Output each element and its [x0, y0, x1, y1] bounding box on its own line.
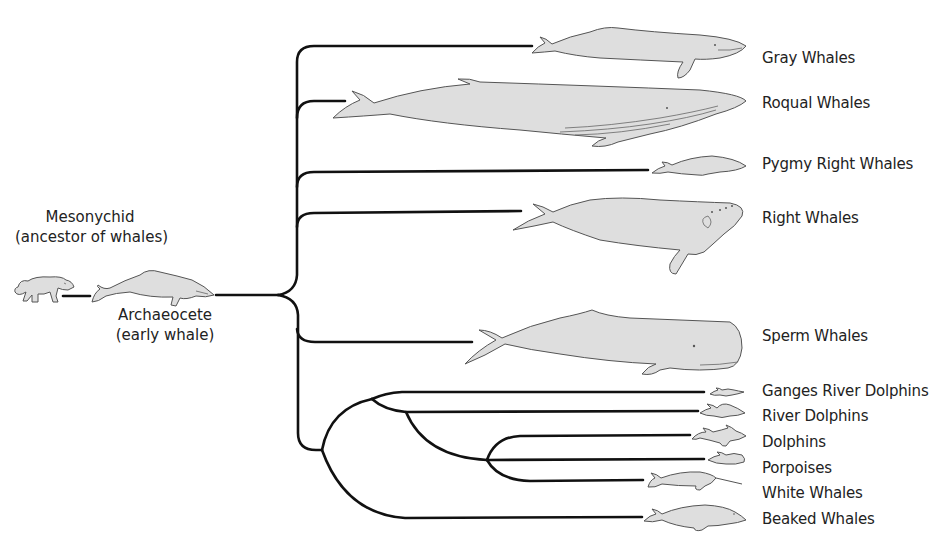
taxon-label-sperm-whales: Sperm Whales [762, 327, 868, 345]
branch-pygmy-right-whales [297, 170, 648, 187]
branch-river-dolphins-node [372, 399, 698, 412]
root-node-lower [278, 295, 322, 450]
beaked-whale-icon [644, 505, 746, 531]
taxon-label-white-whales: White Whales [762, 484, 863, 502]
porpoise-icon [708, 452, 745, 464]
node-odontoceti [322, 399, 372, 450]
taxon-label-ganges-river-dolphins: Ganges River Dolphins [762, 382, 929, 400]
right-whale-icon [513, 198, 743, 274]
dolphin-icon [692, 425, 746, 446]
mesonychid-name: Mesonychid [15, 207, 165, 227]
branch-right-whales [297, 211, 521, 227]
archaeocete-icon [92, 271, 214, 306]
white-whale-icon [648, 472, 742, 490]
taxon-label-dolphins: Dolphins [762, 433, 826, 451]
ganges-river-dolphin-icon [710, 388, 744, 396]
taxon-label-right-whales: Right Whales [762, 209, 859, 227]
taxon-label-pygmy-right-whales: Pygmy Right Whales [762, 155, 913, 173]
pygmy-right-whale-icon [652, 156, 746, 175]
taxon-label-gray-whales: Gray Whales [762, 49, 855, 67]
archaeocete-name: Archaeocete [105, 305, 225, 325]
archaeocete-label: Archaeocete (early whale) [105, 305, 225, 345]
mesonychid-label: Mesonychid (ancestor of whales) [15, 207, 165, 247]
taxon-label-beaked-whales: Beaked Whales [762, 510, 875, 528]
taxon-label-river-dolphins: River Dolphins [762, 407, 868, 425]
branch-white-whales [487, 460, 643, 481]
taxon-label-porpoises: Porpoises [762, 459, 832, 477]
roqual-whale-icon [333, 79, 746, 147]
branch-dolphins [487, 435, 690, 460]
mesonychid-description: (ancestor of whales) [15, 227, 165, 247]
sperm-whale-icon [465, 310, 742, 375]
gray-whale-icon [532, 28, 746, 79]
mesonychid-icon [15, 277, 74, 302]
node-delphinoidea [406, 412, 487, 460]
branch-sperm-whales [297, 329, 472, 342]
branch-porpoises [487, 459, 704, 460]
branch-ganges-river-dolphins [372, 392, 704, 399]
taxon-label-roqual-whales: Roqual Whales [762, 94, 870, 112]
river-dolphin-icon [700, 404, 745, 418]
archaeocete-description: (early whale) [105, 325, 225, 345]
